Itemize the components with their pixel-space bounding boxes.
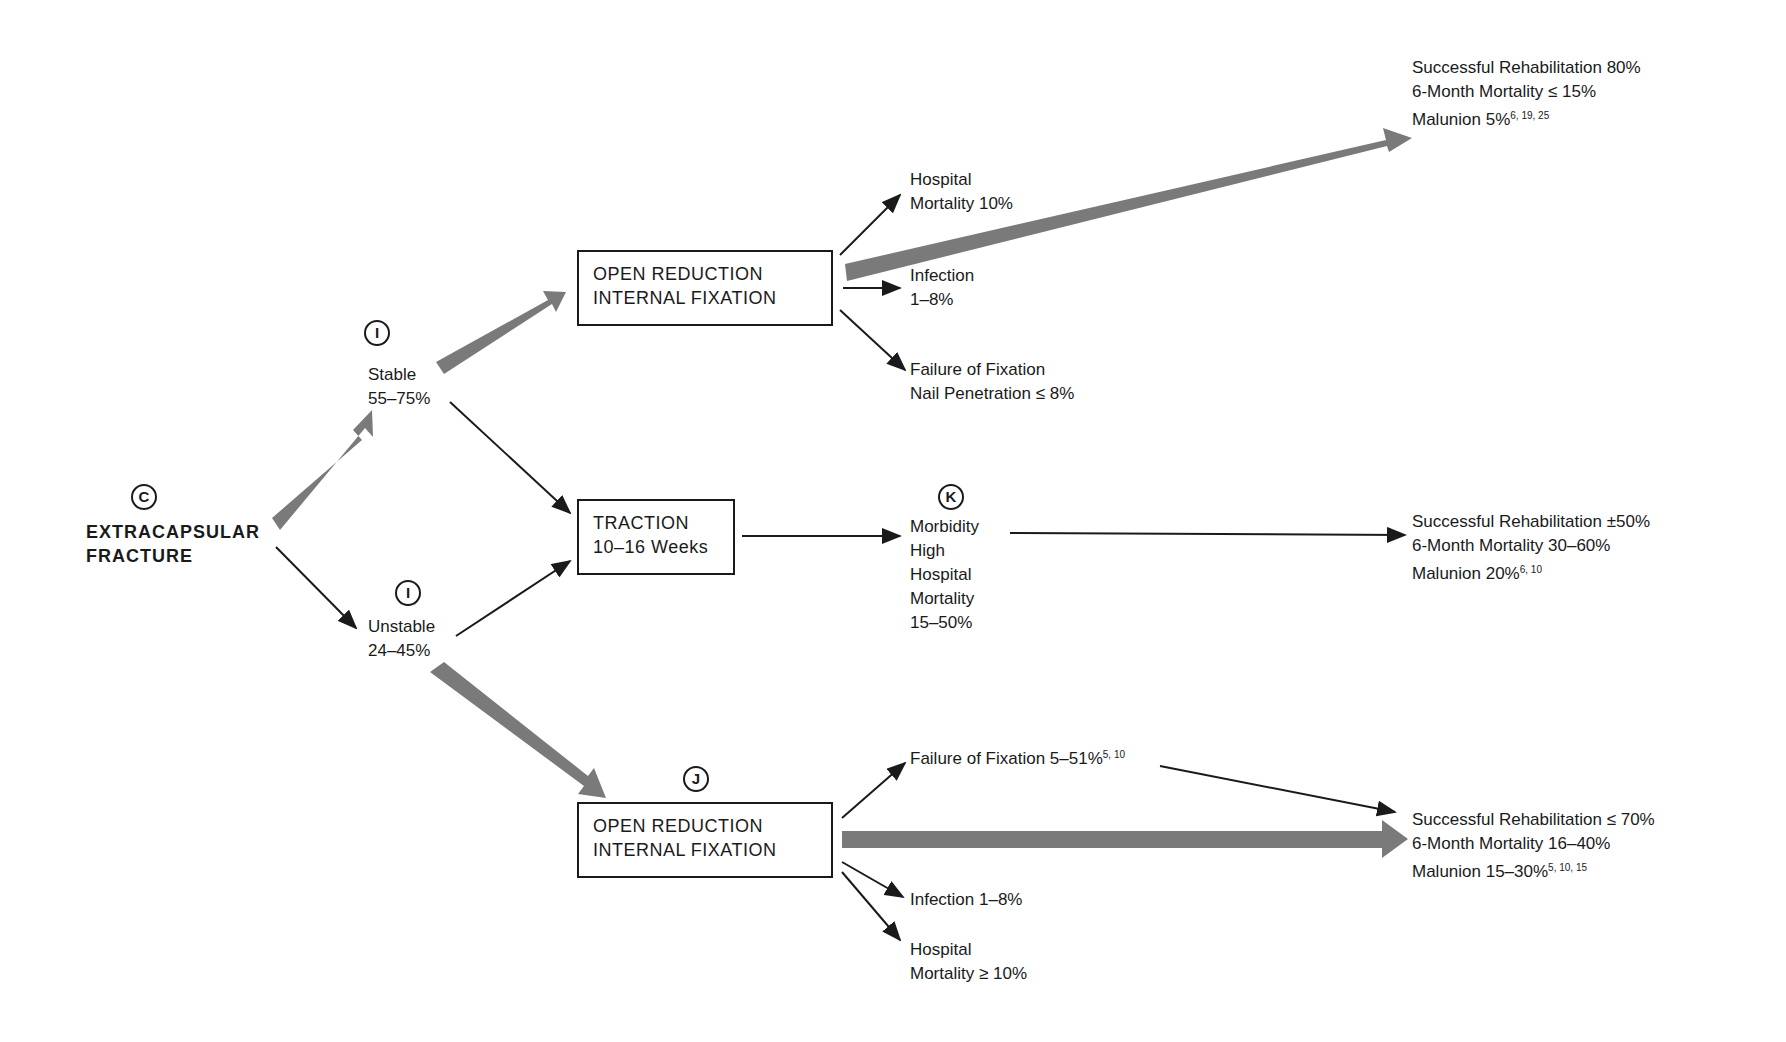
primary-arrow-unstable-to-orif xyxy=(430,662,606,798)
arrow-orif-bottom-to-infection xyxy=(842,862,903,897)
orif-bottom-line2: INTERNAL FIXATION xyxy=(593,838,817,862)
orif-top-failure-line2: Nail Penetration ≤ 8% xyxy=(910,382,1074,406)
orif-bottom-mortality-line2: Mortality ≥ 10% xyxy=(910,962,1027,986)
orif-bottom-infection: Infection 1–8% xyxy=(910,888,1022,912)
arrow-unstable-to-traction xyxy=(456,561,570,636)
primary-arrow-orif-to-outcome-bottom xyxy=(842,820,1408,858)
root-label-line2: FRACTURE xyxy=(86,544,193,568)
marker-j: J xyxy=(683,766,709,792)
orif-top-box: OPEN REDUCTION INTERNAL FIXATION xyxy=(577,250,833,326)
unstable-pct: 24–45% xyxy=(368,639,430,663)
traction-line2: 10–16 Weeks xyxy=(593,535,719,559)
outcome-bottom-line3: Malunion 15–30%5, 10, 15 xyxy=(1412,856,1587,884)
arrow-failure-to-outcome xyxy=(1160,766,1395,812)
orif-bottom-mortality-line1: Hospital xyxy=(910,938,971,962)
orif-bottom-failure: Failure of Fixation 5–51%5, 10 xyxy=(910,743,1125,771)
primary-arrow-root-to-stable xyxy=(272,410,373,530)
marker-k: K xyxy=(938,484,964,510)
arrow-orif-to-hospital-mortality xyxy=(840,195,900,255)
outcome-traction-line2: 6-Month Mortality 30–60% xyxy=(1412,534,1610,558)
outcome-bottom-line2: 6-Month Mortality 16–40% xyxy=(1412,832,1610,856)
orif-top-failure-line1: Failure of Fixation xyxy=(910,358,1045,382)
arrow-orif-to-failure xyxy=(840,310,905,370)
primary-arrow-stable-to-orif xyxy=(436,291,566,374)
morbidity-line3: Hospital xyxy=(910,563,971,587)
outcome-traction-line3: Malunion 20%6, 10 xyxy=(1412,558,1542,586)
root-label-line1: EXTRACAPSULAR xyxy=(86,520,260,544)
orif-top-hospital-line1: Hospital xyxy=(910,168,971,192)
orif-top-line1: OPEN REDUCTION xyxy=(593,262,817,286)
morbidity-line5: 15–50% xyxy=(910,611,972,635)
arrow-morbidity-to-outcome xyxy=(1010,533,1405,535)
outcome-traction-line1: Successful Rehabilitation ±50% xyxy=(1412,510,1650,534)
arrow-orif-bottom-to-mortality xyxy=(842,872,900,940)
arrow-stable-to-traction xyxy=(450,402,570,513)
outcome-top-refs: 6, 19, 25 xyxy=(1510,110,1549,121)
arrow-orif-bottom-to-failure xyxy=(842,763,905,818)
morbidity-line1: Morbidity xyxy=(910,515,979,539)
orif-bottom-box: OPEN REDUCTION INTERNAL FIXATION xyxy=(577,802,833,878)
marker-i-stable: I xyxy=(364,320,390,346)
outcome-traction-refs: 6, 10 xyxy=(1520,564,1542,575)
arrow-root-to-unstable xyxy=(276,547,356,628)
orif-top-line2: INTERNAL FIXATION xyxy=(593,286,817,310)
marker-c: C xyxy=(131,484,157,510)
unstable-label: Unstable xyxy=(368,615,435,639)
orif-top-hospital-line2: Mortality 10% xyxy=(910,192,1013,216)
marker-i-unstable: I xyxy=(395,580,421,606)
outcome-top-line3: Malunion 5%6, 19, 25 xyxy=(1412,104,1549,132)
stable-pct: 55–75% xyxy=(368,387,430,411)
orif-top-infection-line2: 1–8% xyxy=(910,288,953,312)
stable-label: Stable xyxy=(368,363,416,387)
outcome-bottom-refs: 5, 10, 15 xyxy=(1548,862,1587,873)
traction-box: TRACTION 10–16 Weeks xyxy=(577,499,735,575)
morbidity-line2: High xyxy=(910,539,945,563)
outcome-top-line1: Successful Rehabilitation 80% xyxy=(1412,56,1641,80)
orif-bottom-failure-refs: 5, 10 xyxy=(1103,749,1125,760)
traction-line1: TRACTION xyxy=(593,511,719,535)
orif-bottom-line1: OPEN REDUCTION xyxy=(593,814,817,838)
morbidity-line4: Mortality xyxy=(910,587,974,611)
orif-top-infection-line1: Infection xyxy=(910,264,974,288)
outcome-top-line2: 6-Month Mortality ≤ 15% xyxy=(1412,80,1596,104)
outcome-bottom-line1: Successful Rehabilitation ≤ 70% xyxy=(1412,808,1655,832)
